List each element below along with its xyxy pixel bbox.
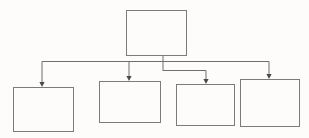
arrowhead-icon-child-1: [39, 82, 44, 87]
node-child-2-box[interactable]: [100, 82, 161, 123]
connector-root-to-child-1: [42, 62, 163, 84]
arrowhead-icon-child-3: [203, 79, 208, 84]
connector-root-to-child-2: [129, 62, 163, 78]
arrowhead-icon-child-4: [266, 74, 271, 79]
diagram-canvas: [0, 0, 309, 138]
node-child-2[interactable]: [100, 82, 161, 123]
node-child-3-box[interactable]: [177, 85, 235, 126]
node-child-3[interactable]: [177, 85, 235, 126]
connector-root-to-child-3: [163, 71, 206, 81]
node-root-box[interactable]: [127, 11, 187, 56]
arrowhead-icon-child-2: [126, 76, 131, 81]
connector-root-to-child-4: [163, 62, 269, 76]
node-child-4-box[interactable]: [241, 80, 300, 127]
node-root[interactable]: [127, 11, 187, 56]
connector-layer: [42, 55, 269, 83]
node-child-4[interactable]: [241, 80, 300, 127]
node-child-1[interactable]: [14, 88, 74, 132]
node-child-1-box[interactable]: [14, 88, 74, 132]
flowchart-svg: [0, 0, 309, 138]
node-layer: [14, 11, 300, 132]
